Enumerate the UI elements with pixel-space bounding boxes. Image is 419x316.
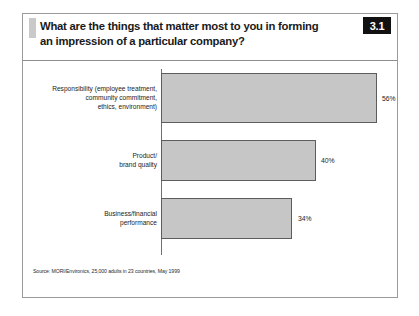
- bar-value-label: 34%: [298, 215, 312, 222]
- source-note: Source: MORI/Environics, 25,000 adults i…: [33, 268, 180, 274]
- bar-value-label: 40%: [321, 157, 335, 164]
- bar-row: Product/ brand quality 40%: [23, 140, 397, 181]
- bar-business-financial-performance: [161, 198, 292, 239]
- bar-row: Business/financial performance 34%: [23, 198, 397, 239]
- bar-category-label-line: community commitment,: [37, 93, 157, 102]
- bar-product-brand-quality: [161, 140, 316, 181]
- figure-panel: What are the things that matter most to …: [22, 13, 398, 298]
- bar-category-label-line: Business/financial: [37, 209, 157, 218]
- figure-header: What are the things that matter most to …: [23, 14, 397, 60]
- bar-responsibility: [161, 73, 377, 123]
- bar-row: Responsibility (employee treatment, comm…: [23, 73, 397, 123]
- bar-category-label-line: Product/: [37, 151, 157, 160]
- bar-category-label: Business/financial performance: [37, 209, 157, 227]
- title-accent-bar: [29, 18, 36, 38]
- bar-chart: Responsibility (employee treatment, comm…: [23, 61, 397, 264]
- bar-category-label-line: brand quality: [37, 160, 157, 169]
- page-title-line-2: an impression of a particular company?: [40, 34, 330, 49]
- bar-category-label-line: ethics, environment): [37, 102, 157, 111]
- bar-category-label: Product/ brand quality: [37, 151, 157, 169]
- bar-category-label: Responsibility (employee treatment, comm…: [37, 84, 157, 112]
- bar-value-label: 56%: [382, 95, 396, 102]
- figure-number-badge: 3.1: [363, 17, 391, 34]
- bar-category-label-line: performance: [37, 218, 157, 227]
- page-title: What are the things that matter most to …: [40, 19, 330, 49]
- bar-category-label-line: Responsibility (employee treatment,: [37, 84, 157, 93]
- page-title-line-1: What are the things that matter most to …: [40, 19, 330, 34]
